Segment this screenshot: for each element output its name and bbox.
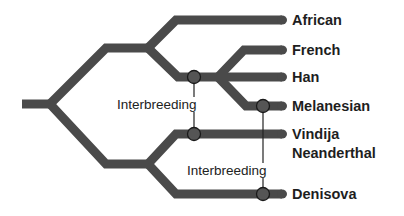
taxon-label-denisova: Denisova [292,186,356,203]
african-branch [148,20,282,48]
phylogenetic-tree-diagram: Interbreeding Interbreeding African Fren… [0,0,404,216]
interbreeding-node-han [188,71,201,84]
interbreeding-node-denisova [257,188,270,201]
taxon-label-melanesian: Melanesian [292,98,370,115]
interbreeding-node-vindija [188,128,201,141]
vindija-branch [148,134,282,164]
taxon-label-neanderthal: Neanderthal [292,145,376,162]
interbreeding-node-melanesian [257,100,270,113]
taxon-label-french: French [292,42,340,59]
interbreeding-label-2: Interbreeding [186,163,268,178]
non-african-branch [148,48,218,77]
modern-human-branch [50,48,148,104]
taxon-label-han: Han [292,69,319,86]
taxon-label-african: African [292,12,342,29]
taxon-label-vindija: Vindija [292,126,339,143]
interbreeding-label-1: Interbreeding [116,97,198,112]
archaic-branch [50,104,148,164]
